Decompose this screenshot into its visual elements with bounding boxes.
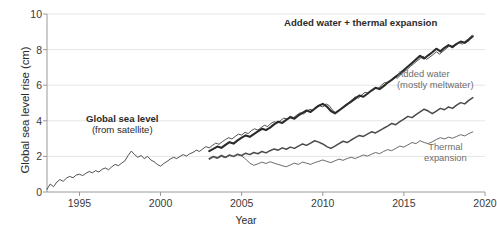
- y-axis-tick-label: 10: [30, 8, 42, 20]
- x-axis-title: Year: [0, 214, 492, 226]
- y-axis-tick-label: 4: [36, 115, 42, 127]
- annotation-thermal-expansion-line2: expansion: [424, 153, 467, 164]
- annotation-total: Added water + thermal expansion: [284, 18, 437, 29]
- annotation-thermal-expansion: Thermal expansion: [424, 142, 467, 163]
- y-axis-tick-label: 0: [36, 186, 42, 198]
- chart-canvas: [47, 14, 485, 192]
- x-axis-tick-label: 2015: [392, 197, 415, 209]
- x-axis-tick-label: 2010: [311, 197, 334, 209]
- annotation-added-water-line1: Added water: [397, 69, 474, 80]
- annotation-thermal-expansion-line1: Thermal: [424, 142, 467, 153]
- series-line: [209, 36, 473, 151]
- y-axis-title: Global sea level rise (cm): [19, 15, 31, 205]
- y-axis-tick-label: 6: [36, 79, 42, 91]
- y-axis-tick-label: 2: [36, 150, 42, 162]
- annotation-global-sea-level-line2: (from satellite): [86, 125, 159, 136]
- x-axis-tick-label: 1995: [68, 197, 91, 209]
- annotation-added-water: Added water (mostly meltwater): [397, 69, 474, 90]
- x-axis-tick-label: 2005: [230, 197, 253, 209]
- plot-area: 0246810199520002005201020152020: [47, 14, 485, 192]
- annotation-added-water-line2: (mostly meltwater): [397, 80, 474, 91]
- x-axis-tick-label: 2000: [149, 197, 172, 209]
- annotation-global-sea-level: Global sea level (from satellite): [86, 114, 159, 135]
- x-axis-tick-label: 2020: [473, 197, 496, 209]
- y-axis-tick-label: 8: [36, 44, 42, 56]
